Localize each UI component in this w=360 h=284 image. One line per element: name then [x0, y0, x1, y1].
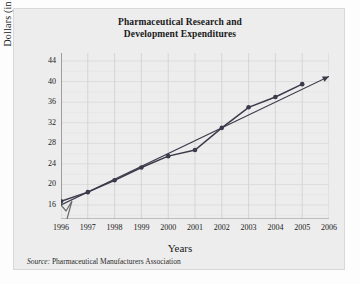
x-tick-label-7: 2003 — [234, 223, 264, 232]
chart-svg — [61, 53, 329, 219]
data-point-marker — [273, 95, 278, 100]
x-tick-label-5: 2001 — [180, 223, 210, 232]
source-prefix: Source: — [27, 257, 50, 266]
plot-area — [61, 53, 329, 219]
y-tick-label-6: 40 — [34, 77, 56, 86]
data-point-marker — [86, 190, 91, 195]
y-tick-label-1: 20 — [34, 179, 56, 188]
x-tick-label-6: 2002 — [207, 223, 237, 232]
data-point-marker — [61, 199, 63, 204]
data-point-marker — [193, 148, 198, 153]
y-tick-label-0: 16 — [34, 200, 56, 209]
y-tick-label-4: 32 — [34, 118, 56, 127]
x-tick-label-9: 2005 — [287, 223, 317, 232]
data-point-marker — [112, 178, 117, 183]
chart-title: Pharmaceutical Research and Development … — [14, 17, 346, 40]
y-axis-label: Dollars (in billions) — [2, 0, 13, 75]
data-point-marker — [166, 154, 171, 159]
chart-title-line-2: Development Expenditures — [14, 29, 346, 41]
x-tick-label-0: 1996 — [46, 223, 76, 232]
x-tick-label-10: 2006 — [314, 223, 344, 232]
source-note: Source: Pharmaceutical Manufacturers Ass… — [27, 257, 181, 266]
data-point-marker — [300, 82, 305, 87]
chart-figure: Pharmaceutical Research and Development … — [13, 8, 345, 270]
data-point-marker — [139, 165, 144, 170]
y-tick-label-5: 36 — [34, 97, 56, 106]
y-tick-label-7: 44 — [34, 56, 56, 65]
x-tick-label-4: 2000 — [153, 223, 183, 232]
chart-title-line-1: Pharmaceutical Research and — [14, 17, 346, 29]
x-tick-label-1: 1997 — [73, 223, 103, 232]
y-tick-label-2: 24 — [34, 159, 56, 168]
data-point-marker — [220, 126, 225, 131]
y-tick-label-3: 28 — [34, 138, 56, 147]
x-tick-label-8: 2004 — [260, 223, 290, 232]
data-point-marker — [246, 105, 251, 110]
x-tick-label-2: 1998 — [100, 223, 130, 232]
gridlines — [61, 53, 329, 219]
x-axis-label: Years — [14, 242, 346, 254]
source-body: Pharmaceutical Manufacturers Association — [50, 257, 181, 266]
x-tick-label-3: 1999 — [126, 223, 156, 232]
